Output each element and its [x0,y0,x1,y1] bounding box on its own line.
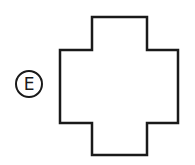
option-label-e: E [16,71,42,97]
diagram-canvas: E [0,0,195,165]
option-letter: E [24,74,35,94]
cross-shape [60,17,178,155]
